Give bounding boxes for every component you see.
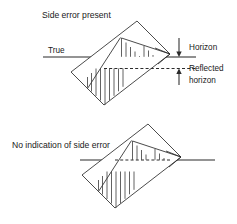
true-label: True (48, 46, 65, 55)
mirror-outline (71, 21, 170, 105)
mirror-outline-2 (82, 124, 181, 208)
reflected-horizon-label-line1: Reflected (189, 64, 224, 73)
reflected-horizon-label-line2: horizon (189, 76, 216, 85)
panel-no-side-error: No indication of side error (12, 124, 215, 208)
arrow-down-icon (176, 38, 181, 57)
panel-side-error-present: Side error present True (42, 10, 224, 105)
horizon-label: Horizon (189, 43, 218, 52)
arrow-up-icon (176, 69, 181, 86)
panel-title-side-error-present: Side error present (42, 10, 111, 20)
panel-title-no-side-error: No indication of side error (12, 140, 110, 150)
figure-root: Side error present True (0, 0, 237, 224)
diagram-svg: Side error present True (0, 0, 237, 224)
